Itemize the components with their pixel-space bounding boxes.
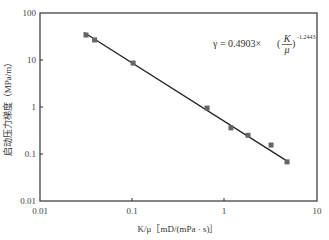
data-point-marker <box>84 33 89 38</box>
x-tick-1: 1 <box>222 206 227 216</box>
plot-frame <box>40 13 317 201</box>
fit-equation: γ = 0.4903× ( K μ ) -1.2443 <box>212 33 316 55</box>
data-point-marker <box>228 125 233 130</box>
svg-text:): ) <box>292 38 295 50</box>
data-point-marker <box>131 61 136 66</box>
data-point-marker <box>269 143 274 148</box>
svg-text:(: ( <box>277 38 281 50</box>
power-law-chart: 100 10 1 0.1 0.01 启动压力梯度（MPa/m） 0.01 0.1… <box>0 0 329 240</box>
y-tick-0.01: 0.01 <box>20 196 36 206</box>
fit-line <box>84 32 288 161</box>
y-tick-100: 100 <box>23 8 37 18</box>
equation-prefix: γ = 0.4903× <box>212 38 261 49</box>
fraction-numerator: K <box>283 33 292 44</box>
equation-exponent: -1.2443 <box>297 34 316 40</box>
data-point-marker <box>205 106 210 111</box>
x-tick-10: 10 <box>313 206 323 216</box>
x-axis-label: K/μ［mD/(mPa · s)］ <box>138 224 219 234</box>
data-point-marker <box>285 159 290 164</box>
y-axis-label: 启动压力梯度（MPa/m） <box>2 58 13 157</box>
y-tick-0.1: 0.1 <box>25 149 36 159</box>
x-tick-0.01: 0.01 <box>32 206 48 216</box>
x-tick-0.1: 0.1 <box>126 206 137 216</box>
y-tick-1: 1 <box>32 102 37 112</box>
x-axis: 0.01 0.1 1 10 K/μ［mD/(mPa · s)］ <box>32 198 322 234</box>
data-point-marker <box>246 133 251 138</box>
y-axis: 100 10 1 0.1 0.01 启动压力梯度（MPa/m） <box>2 8 43 206</box>
y-tick-10: 10 <box>27 55 37 65</box>
fraction-denominator: μ <box>283 44 289 55</box>
data-point-marker <box>92 37 97 42</box>
svg-text:γ = 0.4903×: γ = 0.4903× <box>212 38 261 49</box>
